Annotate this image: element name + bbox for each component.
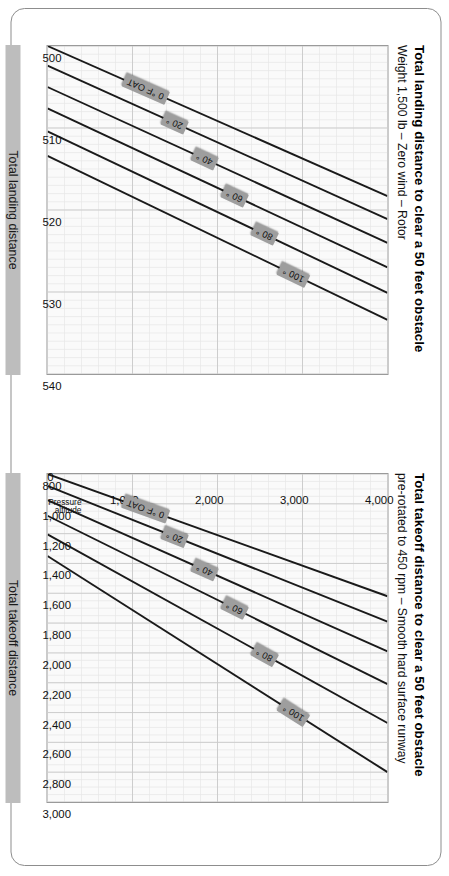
landing-axis-title: Total landing distance xyxy=(5,45,20,375)
takeoff-plot-area xyxy=(46,473,388,803)
takeoff-chart-subtitle: pre-rotated to 450 rpm – Smooth hard sur… xyxy=(394,473,408,764)
takeoff-axis-title: Total takeoff distance xyxy=(5,473,20,803)
takeoff-xtick: 1,800 xyxy=(42,629,71,641)
chart-card: Total landing distance to clear a 50 fee… xyxy=(10,8,441,866)
landing-chart-subtitle: Weight 1,500 lb – Zero wind – Rotor xyxy=(394,45,408,240)
pressure-altitude-tick: 3,000 xyxy=(279,494,308,506)
takeoff-xtick: 1,000 xyxy=(42,510,71,522)
takeoff-xtick: 3,000 xyxy=(42,808,71,820)
takeoff-xtick: 2,600 xyxy=(42,748,71,760)
takeoff-xtick: 2,800 xyxy=(42,778,71,790)
landing-plot-area xyxy=(46,45,388,375)
landing-xtick: 530 xyxy=(42,298,61,310)
takeoff-chart-title: Total takeoff distance to clear a 50 fee… xyxy=(411,473,426,777)
landing-xtick: 540 xyxy=(42,380,61,392)
pressure-altitude-tick: 4,000 xyxy=(364,494,393,506)
takeoff-xtick: 1,200 xyxy=(42,540,71,552)
panel-takeoff-distance: Total takeoff distance to clear a 50 fee… xyxy=(9,437,440,867)
takeoff-xtick: 1,600 xyxy=(42,599,71,611)
takeoff-xtick: 2,200 xyxy=(42,689,71,701)
panel-landing-distance: Total landing distance to clear a 50 fee… xyxy=(9,9,440,437)
landing-xtick: 510 xyxy=(42,134,61,146)
takeoff-xtick: 2,000 xyxy=(42,659,71,671)
pressure-altitude-tick: 2,000 xyxy=(194,494,223,506)
landing-chart-title: Total landing distance to clear a 50 fee… xyxy=(411,45,426,352)
takeoff-xtick: 2,400 xyxy=(42,719,71,731)
landing-xtick: 500 xyxy=(42,52,61,64)
takeoff-xtick: 1,400 xyxy=(42,569,71,581)
takeoff-xtick: 800 xyxy=(42,480,61,492)
landing-xtick: 520 xyxy=(42,216,61,228)
chart-page: Total landing distance to clear a 50 fee… xyxy=(0,0,449,876)
